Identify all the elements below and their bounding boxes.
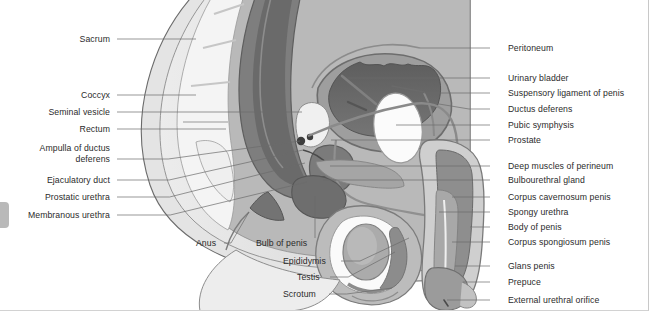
external-urethral-orifice (444, 300, 448, 306)
spongy-urethra (444, 200, 446, 282)
label-bottom-3: Testis (297, 272, 320, 283)
corpus-spongiosum-penis (434, 190, 458, 290)
label-left-0: Sacrum (0, 34, 110, 45)
scrotum (316, 206, 422, 305)
label-left-leader-8 (117, 182, 307, 215)
label-left-4: Ampulla of ductus (0, 143, 110, 154)
label-bottom-leader-2 (341, 238, 409, 261)
label-bottom-leader-0 (224, 212, 249, 243)
anal-sphincter (226, 212, 249, 250)
prepuce (460, 282, 476, 308)
epididymis (380, 227, 407, 289)
label-left-leader-7 (117, 163, 305, 197)
anal-canal (250, 192, 284, 220)
label-left-6: Ejaculatory duct (0, 175, 110, 186)
rectal-lumen (253, 0, 308, 186)
label-left-2: Seminal vesicle (0, 107, 110, 118)
edge-scroll-tab[interactable] (0, 202, 9, 228)
label-right-1: Urinary bladder (508, 73, 569, 84)
pubic-symphysis (369, 90, 426, 166)
seminal-vesicle (296, 103, 330, 147)
bladder-lumen (329, 62, 441, 136)
label-right-13: Prepuce (508, 277, 541, 288)
scrotal-raphe (352, 292, 398, 301)
glans-penis (425, 268, 469, 311)
label-bottom-4: Scrotum (283, 289, 316, 300)
label-right-6: Deep muscles of perineum (508, 161, 613, 172)
coccyx-bone (196, 141, 234, 203)
label-right-leader-3 (415, 100, 490, 109)
label-right-5: Prostate (508, 135, 541, 146)
corpus-cavernosum-penis (436, 150, 473, 288)
anatomy-diagram-page: SacrumCoccyxSeminal vesicleRectumAmpulla… (0, 0, 649, 311)
label-bottom-0: Anus (196, 238, 216, 249)
epididymis-tail (348, 284, 386, 291)
label-left-3: Rectum (0, 124, 110, 135)
label-bottom-1: Bulb of penis (256, 238, 307, 249)
label-right-2: Suspensory ligament of penis (508, 88, 624, 99)
label-left-5: deferens (0, 154, 110, 165)
prostate-gland (309, 145, 354, 193)
deep-muscles-of-perineum (316, 160, 404, 188)
rectum-inner-highlight (260, 0, 283, 168)
label-left-7: Prostatic urethra (0, 192, 110, 203)
label-right-12: Glans penis (508, 261, 555, 272)
bulb-of-penis (292, 176, 346, 219)
rectum (239, 0, 318, 199)
label-left-8: Membranous urethra (0, 210, 110, 221)
urinary-bladder (317, 54, 451, 152)
label-right-11: Corpus spongiosum penis (508, 237, 610, 248)
label-right-9: Spongy urethra (508, 207, 569, 218)
label-right-7: Bulbourethral gland (508, 175, 585, 186)
ductus-deferens (308, 103, 458, 214)
label-left-leader-6 (117, 150, 303, 180)
gluteal-muscle-layer (183, 0, 470, 259)
sacrum-bone (177, 0, 246, 230)
label-bottom-leader-4 (329, 288, 392, 294)
ductus-deferens-nodule (307, 134, 313, 140)
label-left-1: Coccyx (0, 90, 110, 101)
testis (343, 224, 389, 280)
label-left-leader-5 (117, 141, 300, 159)
testis-highlight (347, 227, 377, 265)
label-right-3: Ductus deferens (508, 104, 572, 115)
tunica-vaginalis (330, 216, 407, 294)
label-right-4: Pubic symphysis (508, 120, 574, 131)
penis-skin (419, 140, 484, 309)
label-bottom-2: Epididymis (283, 256, 326, 267)
label-right-14: External urethral orifice (508, 295, 599, 306)
bulbourethral-gland (319, 176, 327, 184)
label-bottom-leader-3 (330, 252, 395, 277)
label-right-8: Corpus cavernosum penis (508, 192, 611, 203)
label-right-0: Peritoneum (508, 43, 553, 54)
ejaculatory-duct (303, 150, 330, 166)
label-right-10: Body of penis (508, 222, 562, 233)
subcutaneous-layer (160, 0, 470, 271)
ampulla-of-ductus-deferens (297, 137, 305, 145)
peritoneum-membrane (312, 45, 420, 88)
suspensory-ligament-of-penis (424, 93, 434, 136)
urethra (335, 140, 453, 288)
